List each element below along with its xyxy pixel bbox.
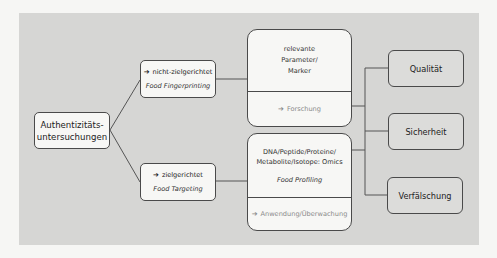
target-label: Verfälschung bbox=[398, 191, 451, 201]
target-label: Qualität bbox=[410, 64, 443, 74]
target-node-adulteration: Verfälschung bbox=[387, 177, 463, 214]
detail-footer: ➔ Anwendung/Überwachung bbox=[248, 198, 351, 230]
arrow-right-icon: ➔ bbox=[153, 171, 159, 180]
detail-method: Food Profiling bbox=[277, 175, 322, 185]
target-label: Sicherheit bbox=[405, 127, 446, 137]
target-node-quality: Qualität bbox=[388, 50, 464, 87]
arrow-right-icon: ➔ bbox=[278, 105, 284, 113]
detail-footer-label: Anwendung/Überwachung bbox=[261, 210, 348, 218]
detail-node-profiling: DNA/Peptide/Proteine/ Metabolite/Isotope… bbox=[247, 133, 352, 231]
branch-label: nicht-zielgerichtet bbox=[153, 68, 213, 77]
root-label-line1: Authentizitäts- bbox=[40, 119, 103, 131]
detail-line: Metabolite/Isotope: Omics bbox=[256, 157, 342, 167]
connector-root-to-untargeted bbox=[110, 80, 140, 130]
detail-line: relevante bbox=[284, 44, 315, 55]
branch-method: Food Targeting bbox=[153, 185, 202, 194]
branch-node-targeted: ➔ zielgerichtet Food Targeting bbox=[140, 163, 216, 201]
detail-footer: ➔ Forschung bbox=[248, 92, 351, 126]
branch-label: zielgerichtet bbox=[162, 171, 203, 180]
detail-content: relevante Parameter/ Marker bbox=[248, 30, 351, 92]
detail-footer-label: Forschung bbox=[287, 105, 321, 113]
branch-node-untargeted: ➔ nicht-zielgerichtet Food Fingerprintin… bbox=[140, 60, 216, 98]
branch-method: Food Fingerprinting bbox=[146, 82, 211, 91]
connector-root-to-targeted bbox=[110, 130, 140, 182]
root-label-line2: untersuchungen bbox=[37, 131, 107, 143]
root-node-authenticity-testing: Authentizitäts- untersuchungen bbox=[34, 112, 110, 149]
detail-line: Marker bbox=[288, 66, 311, 77]
arrow-right-icon: ➔ bbox=[252, 210, 258, 218]
branch-approach: ➔ nicht-zielgerichtet bbox=[144, 68, 213, 77]
target-node-safety: Sicherheit bbox=[388, 113, 464, 150]
detail-content: DNA/Peptide/Proteine/ Metabolite/Isotope… bbox=[248, 134, 351, 198]
branch-approach: ➔ zielgerichtet bbox=[153, 171, 203, 180]
detail-line: DNA/Peptide/Proteine/ bbox=[263, 147, 336, 157]
arrow-right-icon: ➔ bbox=[144, 68, 150, 77]
detail-line: Parameter/ bbox=[281, 55, 318, 66]
detail-node-markers: relevante Parameter/ Marker ➔ Forschung bbox=[247, 29, 352, 127]
